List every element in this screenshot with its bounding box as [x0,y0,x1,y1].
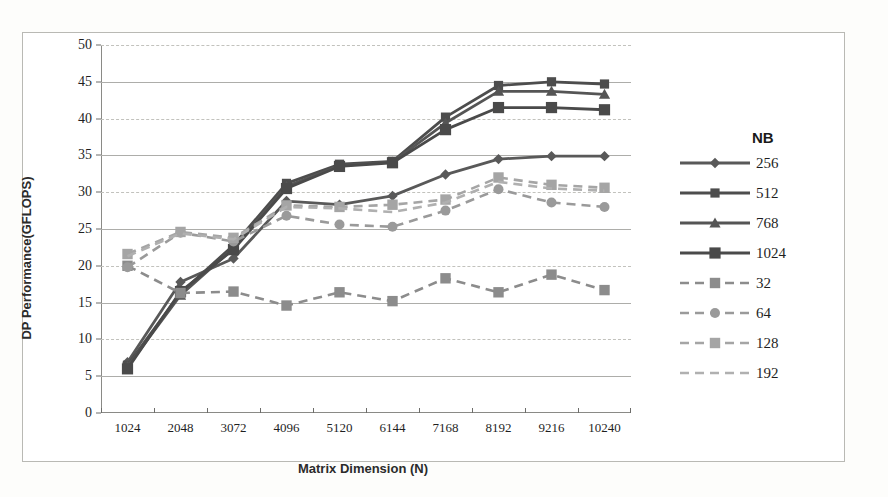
data-point [282,211,292,221]
x-axis-title: Matrix Dimension (N) [83,461,643,476]
series-layer [101,45,631,413]
legend-key-icon [678,362,752,384]
chart-page: DP Performance(GFLOPS) Matrix Dimension … [0,0,888,497]
legend-label: 512 [752,185,779,202]
data-point [493,102,504,113]
legend-item-1024[interactable]: 1024 [678,238,848,268]
legend-item-32[interactable]: 32 [678,268,848,298]
legend-label: 256 [752,155,779,172]
y-axis-title: DP Performance(GFLOPS) [19,143,34,373]
legend-item-512[interactable]: 512 [678,178,848,208]
data-point [122,363,133,374]
legend-rows: 25651276810243264128192 [678,148,848,388]
series-line [128,108,605,369]
data-point [440,124,451,135]
series-32 [122,261,609,311]
legend-key-icon [678,302,752,324]
y-tick-label: 10 [78,331,92,347]
data-point [334,202,344,212]
x-tick-label: 2048 [168,420,194,436]
legend-key-icon [678,242,752,264]
data-point [388,222,398,232]
data-point [546,151,556,161]
x-tick-label: 3072 [221,420,247,436]
legend-key-icon [678,272,752,294]
data-point [228,286,238,296]
legend-key-icon [678,182,752,204]
data-point [599,183,609,193]
data-point [599,151,609,161]
x-tick-label: 7168 [433,420,459,436]
legend-item-192[interactable]: 192 [678,358,848,388]
data-point [494,184,504,194]
data-point [387,200,397,210]
legend-item-768[interactable]: 768 [678,208,848,238]
y-tick-label: 25 [78,221,92,237]
data-point [335,220,345,230]
data-point [546,269,556,279]
legend-key-icon [678,212,752,234]
legend-label: 128 [752,335,779,352]
data-point [547,77,556,86]
data-point [334,161,345,172]
x-tick-label: 9216 [539,420,565,436]
data-point [440,273,450,283]
x-tick-label: 10240 [588,420,621,436]
series-768 [122,86,610,371]
data-point [547,198,557,208]
chart-frame: DP Performance(GFLOPS) Matrix Dimension … [22,32,845,462]
legend-key-icon [678,332,752,354]
data-point [334,287,344,297]
series-192 [128,182,605,256]
data-point [440,169,450,179]
data-point [493,287,503,297]
y-tick-label: 50 [78,37,92,53]
legend-title: NB [752,129,848,146]
y-tick-label: 35 [78,147,92,163]
legend-item-64[interactable]: 64 [678,298,848,328]
chart-legend: NB 25651276810243264128192 [678,129,848,388]
y-tick-label: 30 [78,184,92,200]
series-line [128,177,605,254]
series-1024 [122,102,610,374]
y-tick-label: 5 [85,368,92,384]
data-point [600,79,609,88]
y-tick-label: 15 [78,294,92,310]
legend-key-icon [678,152,752,174]
series-64 [123,184,610,272]
legend-item-128[interactable]: 128 [678,328,848,358]
x-tick-label: 8192 [486,420,512,436]
series-line [128,182,605,256]
legend-item-256[interactable]: 256 [678,148,848,178]
x-tick-label: 6144 [380,420,406,436]
legend-label: 768 [752,215,779,232]
data-point [546,102,557,113]
data-point [493,154,503,164]
series-line [128,266,605,306]
x-tick-label: 4096 [274,420,300,436]
plot-area: 05101520253035404550 1024204830724096512… [101,45,631,413]
y-tick-label: 45 [78,73,92,89]
data-point [387,157,398,168]
data-point [441,206,451,216]
legend-label: 192 [752,365,779,382]
data-point [387,296,397,306]
y-tick-label: 40 [78,110,92,126]
x-tick-label: 1024 [115,420,141,436]
data-point [175,288,185,298]
y-tick-label: 20 [78,257,92,273]
data-point [599,104,610,115]
data-point [123,262,133,272]
legend-label: 1024 [752,245,786,262]
series-512 [123,77,609,370]
y-tick-label: 0 [85,405,92,421]
series-128 [122,172,609,259]
data-point [599,285,609,295]
data-point [600,202,610,212]
series-line [128,82,605,365]
x-tick-label: 5120 [327,420,353,436]
data-point [281,183,292,194]
data-point [281,300,291,310]
series-line [128,91,605,366]
legend-label: 64 [752,305,771,322]
